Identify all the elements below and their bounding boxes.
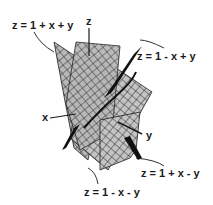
label-plane-z-1-plus-x-minus-y: z = 1 + x - y bbox=[141, 168, 200, 179]
leader-z-1-minus-x-minus-y bbox=[88, 168, 98, 184]
label-plane-z-1-minus-x-plus-y: z = 1 - x + y bbox=[137, 51, 196, 62]
leader-z-1-plus-x-minus-y bbox=[136, 158, 164, 166]
label-plane-z-1-minus-x-minus-y: z = 1 - x - y bbox=[84, 187, 140, 198]
label-z-axis: z bbox=[86, 16, 92, 27]
plane-z-1-plus-x-minus-y bbox=[100, 112, 140, 170]
label-x-axis: x bbox=[42, 112, 48, 123]
leader-z-1-minus-x-plus-y bbox=[140, 40, 164, 48]
leader-z-1-plus-x-plus-y bbox=[34, 32, 54, 52]
label-y-axis: y bbox=[146, 130, 152, 141]
label-plane-z-1-plus-x-plus-y: z = 1 + x + y bbox=[12, 20, 73, 31]
